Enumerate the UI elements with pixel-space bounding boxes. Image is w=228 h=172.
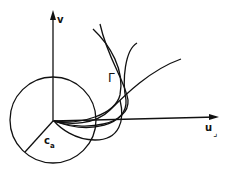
diagram-canvas: v u ⌟ c a Γ: [0, 0, 228, 172]
gamma-label: Γ: [108, 71, 115, 85]
circle-label-subscript: a: [50, 142, 55, 150]
v-axis-label: v: [57, 14, 64, 25]
u-axis-label: u: [205, 122, 212, 133]
u-axis: [53, 117, 216, 121]
u-axis-arrow-icon: [209, 114, 219, 120]
v-axis-arrow-icon: [50, 10, 56, 20]
curve-2: [54, 24, 128, 126]
curve-4: [54, 59, 181, 123]
corner-mark: ⌟: [213, 128, 217, 138]
